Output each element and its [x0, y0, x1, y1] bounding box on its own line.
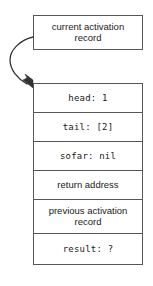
record-row-previous-activation-record: previous activation record [34, 200, 142, 234]
record-row-return-address: return address [34, 171, 142, 200]
record-row-label: head: 1 [65, 93, 110, 103]
caption-box-current-activation-record: current activation record [33, 15, 143, 50]
record-row-label: tail: [2] [60, 122, 117, 132]
record-row-result: result: ? [34, 234, 142, 264]
record-row-label: previous activation record [46, 206, 131, 228]
record-row-tail: tail: [2] [34, 113, 142, 142]
activation-record-stack: head: 1 tail: [2] sofar: nil return addr… [33, 83, 143, 265]
caption-label: current activation record [49, 22, 127, 44]
record-row-head: head: 1 [34, 84, 142, 113]
record-row-label: return address [54, 180, 121, 191]
record-row-label: result: ? [60, 244, 117, 254]
record-row-sofar: sofar: nil [34, 142, 142, 171]
activation-record-diagram: current activation record head: 1 tail: … [0, 0, 153, 286]
record-row-label: sofar: nil [57, 151, 119, 161]
